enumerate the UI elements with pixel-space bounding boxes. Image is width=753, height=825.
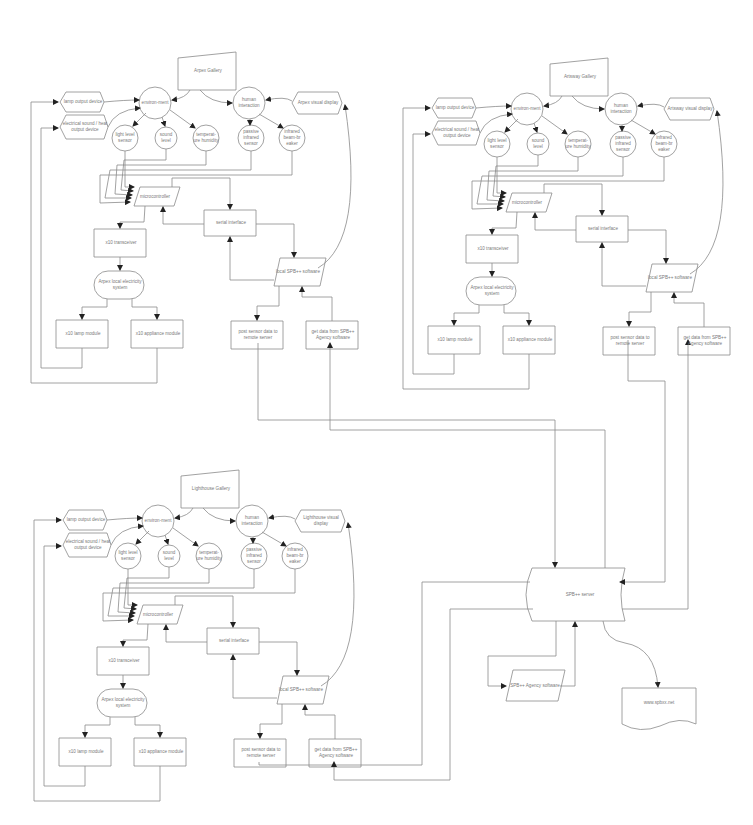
environment-label: environ-ment [142,505,174,537]
human-interaction-label: human interaction [233,87,265,119]
temp-sensor-label: temperat-ure humidity [196,543,222,569]
post-data-label: post sensor data to remote server [605,327,655,355]
get-data-label: get data from SPB++ Agency software [311,739,361,767]
pir-sensor-label: passive infrared sensor [238,125,264,151]
sound-heat-output-label: electrical sound / heat output device [65,533,111,557]
microcontroller-label: microcontroller [508,193,546,212]
serial-label: serial interface [206,210,256,236]
x10-transceiver-label: x10 transceiver [96,229,146,257]
serial-label: serial interface [209,628,259,654]
microcontroller-label: microcontroller [136,187,174,206]
website-label: www.spbxx.net [626,696,692,710]
sound-sensor-label: sound level [158,545,180,567]
x10-appliance-label: x10 appliance module [133,320,183,348]
sound-sensor-label: sound level [527,133,549,155]
electricity-label: Arpex local electricity system [96,271,144,299]
x10-appliance-label: x10 appliance module [505,326,555,354]
diagram-canvas: Arpex Galleryenviron-menthuman interacti… [0,0,753,825]
human-interaction-label: human interaction [605,93,637,125]
get-data-label: get data from SPB++ Agency software [308,321,358,349]
sound-heat-output-label: electrical sound / heat output device [434,121,480,145]
post-data-label: post sensor data to remote server [233,321,283,349]
light-sensor-label: light level sensor [112,125,138,151]
environment-label: environ-ment [511,93,543,125]
local-software-label: local SPB++ software [279,676,323,704]
sound-heat-output-label: electrical sound / heat output device [62,115,108,139]
x10-lamp-label: x10 lamp module [61,738,111,766]
x10-lamp-label: x10 lamp module [58,320,108,348]
post-data-label: post sensor data to remote server [236,739,286,767]
beam-sensor-label: infrared beam-br eaker [279,125,305,151]
lamp-output-label: lamp output device [65,510,107,530]
x10-lamp-label: x10 lamp module [430,326,480,354]
beam-sensor-label: infrared beam-br eaker [651,131,677,157]
gallery-label: Lighthouse Gallery [183,470,239,508]
get-data-label: get data from SPB++ Agency software [680,327,730,355]
serial-label: serial interface [578,216,628,242]
sound-sensor-label: sound level [155,127,177,149]
light-sensor-label: light level sensor [484,131,510,157]
temp-sensor-label: temperat-ure humidity [193,125,219,151]
gallery-label: Arpex Gallery [180,52,236,90]
microcontroller-label: microcontroller [139,605,177,624]
central-server-group [258,340,696,780]
electricity-label: Arpex local electricity system [468,277,516,305]
x10-appliance-label: x10 appliance module [136,738,186,766]
x10-transceiver-label: x10 transceiver [99,647,149,675]
beam-sensor-label: infrared beam-br eaker [282,543,308,569]
visual-display-label: Artsway visual display [666,98,714,120]
lamp-output-label: lamp output device [434,98,476,118]
local-software-label: local SPB++ software [648,264,692,292]
visual-display-label: Arpex visual display [294,92,342,114]
visual-display-label: Lighthouse visual display [297,510,345,532]
temp-sensor-label: temperat-ure humidity [565,131,591,157]
gallery-label: Artsway Gallery [552,58,608,96]
human-interaction-label: human interaction [236,505,268,537]
local-software-label: local SPB++ software [276,258,320,286]
lamp-output-label: lamp output device [62,92,104,112]
x10-transceiver-label: x10 transceiver [468,235,518,263]
environment-label: environ-ment [139,87,171,119]
pir-sensor-label: passive infrared sensor [241,543,267,569]
electricity-label: Arpex local electricity system [99,689,147,717]
spb-server-label: SPB++ server [540,588,620,602]
pir-sensor-label: passive infrared sensor [610,131,636,157]
light-sensor-label: light level sensor [115,543,141,569]
agency-software-label: SPB++ Agency software [510,678,560,694]
